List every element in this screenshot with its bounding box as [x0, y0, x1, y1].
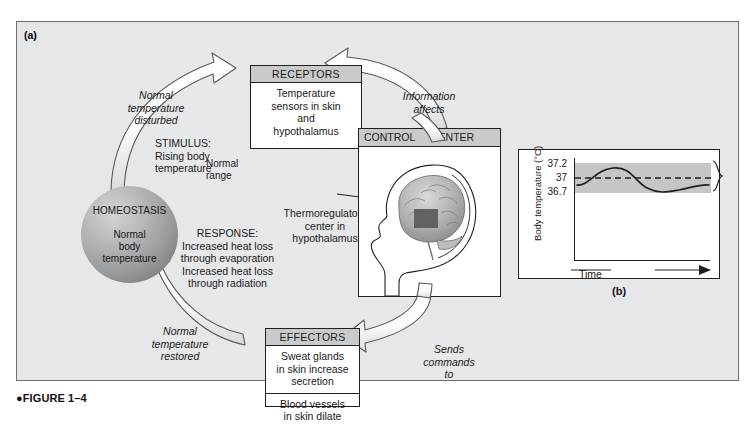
homeostasis-title: HOMEOSTASIS [93, 205, 167, 217]
label-normal-temperature-restored: Normal temperature restored [134, 325, 226, 363]
control-center-box: CONTROL CENTER [358, 128, 501, 297]
chart-plot-area [574, 158, 710, 261]
chart-x-axis-label: Time [579, 268, 602, 280]
homeostasis-label-group: HOMEOSTASIS Normal body temperature [93, 193, 167, 277]
figure-caption: ●FIGURE 1–4 [16, 392, 87, 404]
chart-temperature-curve [577, 168, 709, 192]
hypothalamus-marker [414, 209, 438, 228]
panel-b-label: (b) [612, 285, 626, 297]
panel-b-chart-frame: Body temperature (°C) 37.2 37 36.7 Time [518, 149, 720, 279]
effectors-header: EFFECTORS [266, 329, 359, 346]
homeostasis-body: Normal body temperature [93, 229, 167, 265]
receptors-header: RECEPTORS [251, 66, 361, 83]
control-center-header-left: CONTROL [364, 131, 415, 143]
chart-y-tick-low: 36.7 [541, 186, 567, 197]
effectors-body-sweat-glands: Sweat glands in skin increase secretion [266, 346, 359, 393]
label-normal-temperature-disturbed: Normal temperature disturbed [110, 89, 202, 127]
chart-y-tick-mid: 37 [541, 172, 567, 183]
chart-normal-range-bracket [711, 159, 725, 193]
chart-curve-layer [575, 158, 711, 261]
control-center-header: CONTROL CENTER [359, 129, 500, 147]
receptors-box: RECEPTORS Temperature sensors in skin an… [250, 65, 362, 149]
label-sends-commands-to: Sends commands to [409, 343, 489, 381]
label-information-affects: Information affects [383, 90, 475, 115]
chart-y-tick-high: 37.2 [541, 158, 567, 169]
panel-a-label: (a) [24, 29, 492, 41]
effectors-body-blood-vessels: Blood vessels in skin dilate [266, 393, 359, 428]
control-center-header-right: CENTER [431, 131, 474, 143]
chart-normal-range-label: Normal range [206, 158, 238, 181]
receptors-body: Temperature sensors in skin and hypothal… [251, 83, 361, 142]
effectors-box: EFFECTORS Sweat glands in skin increase … [265, 328, 360, 407]
head-brain-illustration [359, 147, 500, 296]
